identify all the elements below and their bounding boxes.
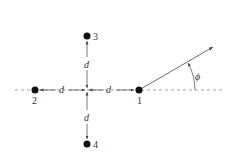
direction-arrow (139, 47, 213, 90)
angle-label: ϕ (195, 71, 200, 82)
diagram-canvas: 1 2 3 4 d d d d ϕ (0, 0, 239, 160)
spacing-label-up: d (84, 59, 90, 70)
spacing-label-left: d (59, 84, 65, 95)
element-2-label: 2 (32, 95, 37, 106)
angle-arc (188, 63, 195, 90)
element-2-dot (32, 87, 39, 94)
element-3-dot (84, 33, 91, 40)
element-4-label: 4 (93, 139, 98, 150)
element-1-label: 1 (137, 95, 142, 106)
element-1-dot (136, 87, 143, 94)
spacing-label-right: d (106, 84, 112, 95)
element-4-dot (84, 141, 91, 148)
array-diagram: 1 2 3 4 d d d d ϕ (0, 0, 239, 160)
element-3-label: 3 (93, 31, 98, 42)
spacing-label-down: d (84, 112, 90, 123)
